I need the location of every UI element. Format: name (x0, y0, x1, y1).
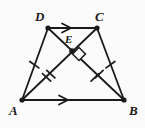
geometry-canvas (0, 0, 145, 128)
vertex-point-D (45, 25, 50, 30)
vertex-label-e: E (65, 34, 72, 45)
vertex-label-b: B (129, 104, 138, 117)
vertex-point-C (94, 25, 99, 30)
vertex-label-c: C (95, 10, 104, 23)
vertex-point-A (19, 97, 24, 102)
vertex-point-B (121, 97, 126, 102)
geometry-figure: A B C D E (0, 0, 145, 128)
vertex-point-E (69, 48, 75, 54)
vertex-label-a: A (9, 104, 18, 117)
segment-AD (22, 28, 48, 100)
vertex-label-d: D (35, 10, 44, 23)
